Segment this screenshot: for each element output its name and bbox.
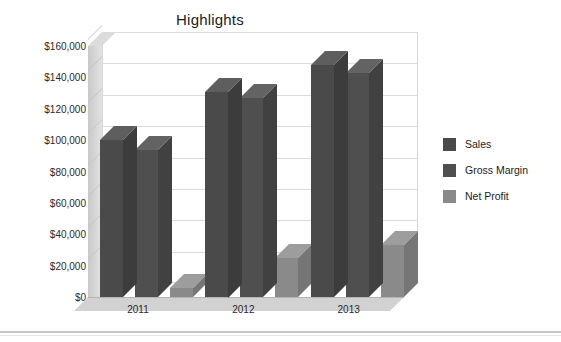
y-axis-tick-label: $160,000 [2, 41, 86, 52]
bar-front-face [205, 92, 228, 298]
legend-item-sales[interactable]: Sales [443, 131, 555, 157]
bar-front-face [135, 150, 158, 297]
bar-front-face [381, 245, 404, 297]
gridline [102, 32, 418, 33]
bar-side-face [334, 51, 348, 297]
bar-side-face [123, 126, 137, 297]
bar-side-face [263, 84, 277, 297]
bar-front-face [275, 258, 298, 297]
bar-gross-margin-2013 [346, 73, 369, 297]
footer-divider [0, 331, 561, 333]
bar-side-face [158, 136, 172, 297]
legend-swatch-icon [443, 164, 456, 177]
y-axis-tick-label: $40,000 [2, 229, 86, 240]
y-axis-tick-label: $100,000 [2, 135, 86, 146]
y-axis-tick-label: $80,000 [2, 166, 86, 177]
bar-net-profit-2012 [275, 258, 298, 297]
bar-front-face [311, 65, 334, 297]
x-axis-tick-label: 2013 [309, 304, 389, 315]
legend-item-label: Net Profit [465, 190, 509, 202]
bar-sales-2011 [100, 140, 123, 297]
bar-net-profit-2013 [381, 245, 404, 297]
legend-item-label: Gross Margin [465, 164, 528, 176]
bar-front-face [170, 288, 193, 297]
plot-floor-edge [88, 297, 404, 298]
y-axis-tick-label: $120,000 [2, 103, 86, 114]
bar-sales-2012 [205, 92, 228, 298]
x-axis-tick-label: 2011 [98, 304, 178, 315]
footer-divider-secondary [0, 335, 561, 336]
legend-item-net-profit[interactable]: Net Profit [443, 183, 555, 209]
bar-gross-margin-2011 [135, 150, 158, 297]
bar-net-profit-2011 [170, 288, 193, 297]
legend-swatch-icon [443, 190, 456, 203]
bar-gross-margin-2012 [240, 98, 263, 297]
y-axis-labels: $0$20,000$40,000$60,000$80,000$100,000$1… [0, 0, 86, 342]
y-axis-tick-label: $140,000 [2, 72, 86, 83]
chart-legend: SalesGross MarginNet Profit [443, 131, 555, 209]
plot-area [88, 46, 404, 297]
bar-front-face [240, 98, 263, 297]
legend-item-gross-margin[interactable]: Gross Margin [443, 157, 555, 183]
bar-side-face [228, 78, 242, 298]
chart-container: Highlights $0$20,000$40,000$60,000$80,00… [0, 0, 561, 342]
y-axis-tick-label: $20,000 [2, 260, 86, 271]
legend-item-label: Sales [465, 138, 491, 150]
legend-swatch-icon [443, 138, 456, 151]
bar-front-face [346, 73, 369, 297]
bar-side-face [369, 59, 383, 297]
bar-front-face [100, 140, 123, 297]
y-axis-tick-label: $0 [2, 292, 86, 303]
bar-sales-2013 [311, 65, 334, 297]
x-axis-tick-label: 2012 [203, 304, 283, 315]
y-axis-tick-label: $60,000 [2, 197, 86, 208]
